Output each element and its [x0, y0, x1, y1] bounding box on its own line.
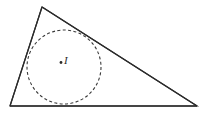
- incenter-point: [60, 61, 63, 64]
- geometry-figure: I: [0, 0, 205, 113]
- incenter-label: I: [64, 55, 68, 66]
- figure-background: [0, 0, 205, 113]
- figure-canvas: [0, 0, 205, 113]
